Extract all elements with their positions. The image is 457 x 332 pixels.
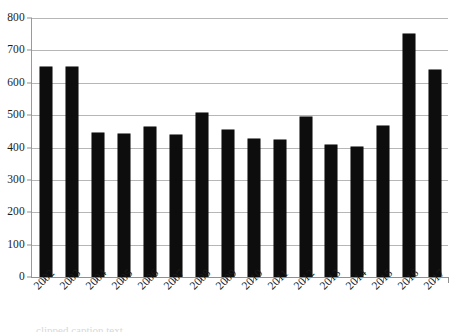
bar-slot — [370, 18, 396, 277]
bar — [248, 139, 260, 277]
bar-slot — [422, 18, 448, 277]
clipped-caption: clipped caption text — [36, 325, 366, 332]
x-label-cell: 2008 — [188, 284, 214, 328]
x-label-cell: 2010 — [240, 284, 266, 328]
bar — [196, 113, 208, 277]
y-tick-label: 200 — [7, 207, 32, 219]
bar-slot — [267, 18, 293, 277]
bar-slot — [85, 18, 111, 277]
x-label-cell: 2002 — [33, 284, 59, 328]
bar-slot — [215, 18, 241, 277]
y-tick-label: 400 — [7, 142, 32, 154]
bar — [118, 134, 130, 277]
y-tick-label: 700 — [7, 45, 32, 57]
bar-slot — [396, 18, 422, 277]
x-label-cell: 2015 — [370, 284, 396, 328]
y-tick-label: 500 — [7, 109, 32, 121]
bar-slot — [293, 18, 319, 277]
bar — [429, 70, 441, 277]
x-tick-mark — [448, 277, 449, 283]
bar — [300, 117, 312, 277]
bar — [274, 140, 286, 277]
x-label-cell: 2016 — [396, 284, 422, 328]
bar-series — [34, 18, 449, 277]
bar — [325, 145, 337, 277]
bar — [170, 135, 182, 277]
x-label-cell: 2003 — [58, 284, 84, 328]
y-tick-label: 100 — [7, 239, 32, 251]
bar — [351, 147, 363, 277]
x-label-cell: 2005 — [110, 284, 136, 328]
y-tick-label: 600 — [7, 77, 32, 89]
x-label-cell: 2009 — [214, 284, 240, 328]
bar — [92, 133, 104, 277]
bar-slot — [318, 18, 344, 277]
bar-slot — [241, 18, 267, 277]
bar-slot — [163, 18, 189, 277]
plot-area: 8007006005004003002001000 — [31, 18, 448, 277]
bar — [144, 127, 156, 277]
bar-slot — [189, 18, 215, 277]
x-label-cell: 2013 — [318, 284, 344, 328]
y-tick-label: 300 — [7, 174, 32, 186]
bar — [377, 126, 389, 278]
x-label-cell: 2004 — [84, 284, 110, 328]
bar-slot — [137, 18, 163, 277]
x-axis-labels: 2002200320042005200620072008200920102011… — [33, 284, 448, 328]
bar-slot — [111, 18, 137, 277]
y-tick-label: 800 — [7, 12, 32, 24]
bar-chart: 8007006005004003002001000 20022003200420… — [0, 0, 457, 332]
bar-slot — [344, 18, 370, 277]
bar — [66, 67, 78, 277]
bar — [222, 130, 234, 277]
x-label-cell: 2014 — [344, 284, 370, 328]
x-label-cell: 2011 — [266, 284, 292, 328]
x-label-cell: 2012 — [292, 284, 318, 328]
bar-slot — [34, 18, 60, 277]
x-label-cell: 2006 — [136, 284, 162, 328]
bar — [403, 34, 415, 277]
bar-slot — [59, 18, 85, 277]
x-label-cell: 2007 — [162, 284, 188, 328]
bar — [40, 67, 52, 277]
x-label-cell: 2017 — [422, 284, 448, 328]
